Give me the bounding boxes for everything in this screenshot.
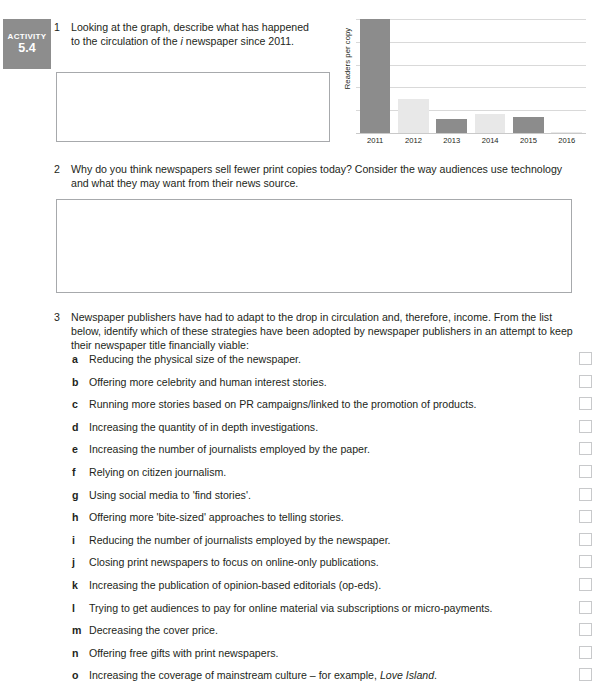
- checkbox-e[interactable]: [579, 442, 592, 455]
- chart-bar-slot: [394, 19, 432, 133]
- list-item-text: Increasing the quantity of in depth inve…: [89, 420, 584, 434]
- chart-bar-slot: [433, 19, 471, 133]
- list-item-text: Reducing the physical size of the newspa…: [89, 352, 584, 366]
- chart-bar-2015: [513, 117, 544, 133]
- chart-bar-slot: [356, 19, 394, 133]
- list-item-letter: f: [72, 465, 89, 479]
- list-item-italic-title: Love Island: [380, 669, 434, 681]
- chart-bar-2016: [551, 132, 582, 133]
- checkbox-l[interactable]: [579, 601, 592, 614]
- question-2-text: Why do you think newspapers sell fewer p…: [71, 162, 574, 190]
- checkbox-k[interactable]: [579, 578, 592, 591]
- list-item-text: Trying to get audiences to pay for onlin…: [89, 601, 584, 615]
- checkbox-n[interactable]: [579, 646, 592, 659]
- list-item-letter: g: [72, 488, 89, 502]
- checkbox-i[interactable]: [579, 533, 592, 546]
- question-3: 3 Newspaper publishers have had to adapt…: [54, 310, 576, 353]
- chart-y-axis-label: Readers per copy: [343, 16, 352, 102]
- question-2: 2 Why do you think newspapers sell fewer…: [54, 162, 574, 190]
- chart-x-tick-2013: 2013: [433, 136, 471, 145]
- list-item: gUsing social media to 'find stories'.: [72, 488, 584, 511]
- list-item: nOffering free gifts with print newspape…: [72, 646, 584, 669]
- list-item-text: Running more stories based on PR campaig…: [89, 397, 584, 411]
- chart-bar-2013: [436, 119, 467, 133]
- chart-bar-2011: [360, 19, 391, 133]
- list-item-text: Increasing the number of journalists emp…: [89, 442, 584, 456]
- list-item: hOffering more 'bite-sized' approaches t…: [72, 510, 584, 533]
- list-item: kIncreasing the publication of opinion-b…: [72, 578, 584, 601]
- list-item-text: Increasing the publication of opinion-ba…: [89, 578, 584, 592]
- chart-x-tick-2012: 2012: [394, 136, 432, 145]
- list-item-text-part-2: .: [434, 669, 437, 681]
- list-item-text: Relying on citizen journalism.: [89, 465, 584, 479]
- chart-bars: [356, 19, 586, 133]
- list-item: eIncreasing the number of journalists em…: [72, 442, 584, 465]
- checkbox-c[interactable]: [579, 397, 592, 410]
- list-item: lTrying to get audiences to pay for onli…: [72, 601, 584, 624]
- list-item-letter: o: [72, 668, 89, 682]
- activity-badge: ACTIVITY 5.4: [3, 19, 51, 69]
- activity-badge-number: 5.4: [18, 42, 35, 55]
- checkbox-g[interactable]: [579, 488, 592, 501]
- chart-baseline: [356, 133, 586, 134]
- list-item-text-part-1: Increasing the coverage of mainstream cu…: [89, 669, 380, 681]
- list-item: mDecreasing the cover price.: [72, 623, 584, 646]
- list-item: iReducing the number of journalists empl…: [72, 533, 584, 556]
- question-1-text-part-2: newspaper since 2011.: [183, 35, 294, 47]
- answer-box-2[interactable]: [56, 199, 572, 293]
- checkbox-o[interactable]: [579, 668, 592, 681]
- list-item: dIncreasing the quantity of in depth inv…: [72, 420, 584, 443]
- list-item-letter: m: [72, 623, 89, 637]
- list-item-letter: h: [72, 510, 89, 524]
- checkbox-d[interactable]: [579, 420, 592, 433]
- question-1: 1 Looking at the graph, describe what ha…: [54, 20, 312, 48]
- list-item-letter: d: [72, 420, 89, 434]
- activity-badge-word: ACTIVITY: [8, 33, 47, 41]
- chart-plot-area: [356, 19, 586, 134]
- chart-bar-slot: [548, 19, 586, 133]
- question-3-text: Newspaper publishers have had to adapt t…: [71, 310, 576, 353]
- list-item: cRunning more stories based on PR campai…: [72, 397, 584, 420]
- list-item: aReducing the physical size of the newsp…: [72, 352, 584, 375]
- question-1-text: Looking at the graph, describe what has …: [71, 20, 312, 48]
- chart-bar-slot: [471, 19, 509, 133]
- list-item-text: Using social media to 'find stories'.: [89, 488, 584, 502]
- list-item-letter: k: [72, 578, 89, 592]
- list-item-text: Increasing the coverage of mainstream cu…: [89, 668, 584, 682]
- list-item-letter: a: [72, 352, 89, 366]
- checkbox-j[interactable]: [579, 555, 592, 568]
- list-item-letter: c: [72, 397, 89, 411]
- list-item: oIncreasing the coverage of mainstream c…: [72, 668, 584, 685]
- chart-bar-slot: [509, 19, 547, 133]
- list-item-letter: n: [72, 646, 89, 660]
- chart-x-tick-2016: 2016: [548, 136, 586, 145]
- list-item-text: Decreasing the cover price.: [89, 623, 584, 637]
- chart-x-axis: 201120122013201420152016: [356, 136, 586, 145]
- list-item-letter: l: [72, 601, 89, 615]
- checkbox-h[interactable]: [579, 510, 592, 523]
- question-3-number: 3: [54, 310, 71, 353]
- answer-box-1[interactable]: [56, 72, 330, 142]
- strategy-checklist: aReducing the physical size of the newsp…: [72, 352, 584, 685]
- readers-per-copy-chart: Readers per copy 20112012201320142015201…: [334, 8, 586, 154]
- checkbox-m[interactable]: [579, 623, 592, 636]
- list-item-text: Closing print newspapers to focus on onl…: [89, 555, 584, 569]
- list-item-letter: j: [72, 555, 89, 569]
- list-item-letter: e: [72, 442, 89, 456]
- question-2-number: 2: [54, 162, 71, 190]
- list-item-text: Offering more celebrity and human intere…: [89, 375, 584, 389]
- question-1-number: 1: [54, 20, 71, 48]
- list-item-letter: i: [72, 533, 89, 547]
- chart-x-tick-2015: 2015: [509, 136, 547, 145]
- list-item-letter: b: [72, 375, 89, 389]
- checkbox-a[interactable]: [579, 352, 592, 365]
- checkbox-f[interactable]: [579, 465, 592, 478]
- chart-bar-2012: [398, 99, 429, 133]
- list-item: fRelying on citizen journalism.: [72, 465, 584, 488]
- chart-x-tick-2011: 2011: [356, 136, 394, 145]
- list-item-text: Reducing the number of journalists emplo…: [89, 533, 584, 547]
- checkbox-b[interactable]: [579, 375, 592, 388]
- chart-x-tick-2014: 2014: [471, 136, 509, 145]
- list-item-text: Offering free gifts with print newspaper…: [89, 646, 584, 660]
